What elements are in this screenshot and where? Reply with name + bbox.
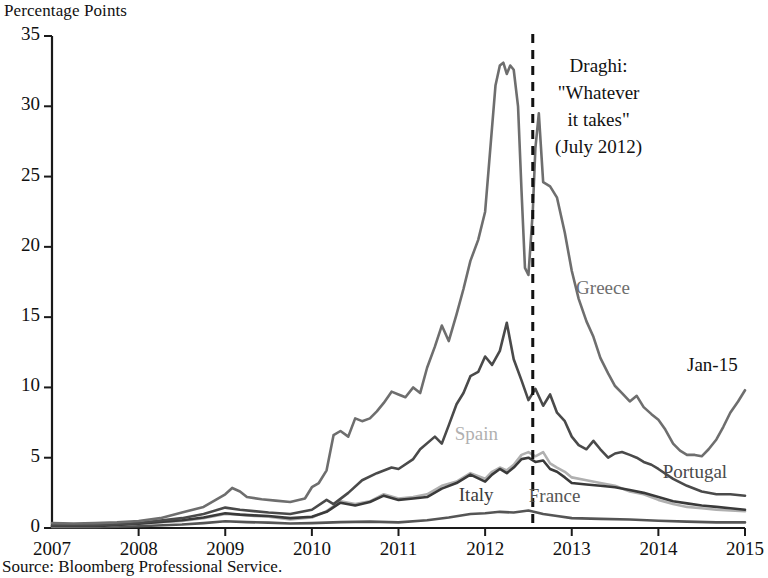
annotation-line-2: "Whatever	[555, 79, 642, 106]
y-tick-35: 35	[0, 23, 40, 45]
y-tick-20: 20	[0, 234, 40, 256]
annotation-line-1: Draghi:	[555, 52, 642, 79]
x-tick-2013: 2013	[532, 538, 612, 560]
series-label-france: France	[529, 485, 581, 507]
endpoint-label-jan15: Jan-15	[687, 354, 738, 376]
y-tick-10: 10	[0, 374, 40, 396]
source-note: Source: Bloomberg Professional Service.	[2, 557, 282, 577]
x-tick-2014: 2014	[618, 538, 698, 560]
series-line-spain	[52, 452, 745, 527]
y-tick-25: 25	[0, 164, 40, 186]
y-tick-30: 30	[0, 93, 40, 115]
y-tick-0: 0	[0, 515, 40, 537]
x-tick-2011: 2011	[359, 538, 439, 560]
series-label-greece: Greece	[576, 277, 630, 299]
x-tick-2010: 2010	[272, 538, 352, 560]
draghi-annotation: Draghi: "Whatever it takes" (July 2012)	[555, 52, 642, 160]
annotation-line-4: (July 2012)	[555, 133, 642, 160]
y-tick-15: 15	[0, 304, 40, 326]
x-tick-2015: 2015	[705, 538, 768, 560]
annotation-line-3: it takes"	[555, 106, 642, 133]
y-tick-5: 5	[0, 445, 40, 467]
series-label-portugal: Portugal	[663, 461, 727, 483]
series-label-italy: Italy	[459, 484, 494, 506]
x-tick-2012: 2012	[445, 538, 525, 560]
series-label-spain: Spain	[455, 423, 498, 445]
